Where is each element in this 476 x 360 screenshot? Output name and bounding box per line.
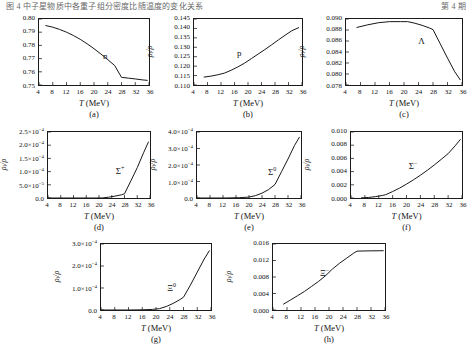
ytick-label-h-0: 0.000 <box>228 307 269 315</box>
ytick-label-h-4: 0.016 <box>228 239 269 247</box>
xtick-label-g-2: 12 <box>120 313 136 321</box>
subplot-e: 0.01.0×10−42.0×10−43.0×10−44.0×10−448121… <box>0 0 476 360</box>
ytick-label-h-3: 0.012 <box>228 256 269 264</box>
xtick-label-c-2: 12 <box>367 88 383 96</box>
xtick-label-h-0: 4 <box>264 313 280 321</box>
xtick-label-h-6: 28 <box>350 313 366 321</box>
xtick-label-d-0: 4 <box>39 201 55 209</box>
xtick-label-d-3: 16 <box>78 201 94 209</box>
xtick-label-a-1: 8 <box>44 88 60 96</box>
xtick-label-b-8: 36 <box>295 88 311 96</box>
data-curve-f <box>361 140 460 198</box>
x-axis-label-h: T (MeV) <box>272 323 386 333</box>
xtick-label-c-3: 16 <box>381 88 397 96</box>
curve-svg-c <box>346 19 462 85</box>
curve-label-f: Σ− <box>409 160 418 171</box>
xtick-label-g-7: 32 <box>190 313 206 321</box>
plot-area-a <box>38 18 150 86</box>
xtick-label-h-5: 24 <box>335 313 351 321</box>
subplot-d: 0.05.0×10−51.0×10−41.5×10−42.0×10−42.5×1… <box>0 0 476 360</box>
xtick-label-a-7: 32 <box>128 88 144 96</box>
xtick-label-g-0: 4 <box>92 313 108 321</box>
ytick-label-d-5: 2.5×10−4 <box>3 127 44 136</box>
xtick-label-f-2: 12 <box>370 201 386 209</box>
x-axis-label-e: T (MeV) <box>196 211 302 221</box>
ytick-label-a-5: 0.80 <box>0 14 35 22</box>
xtick-label-d-1: 8 <box>52 201 68 209</box>
data-curve-h <box>284 251 384 304</box>
ytick-label-b-6: 0.140 <box>149 23 190 31</box>
ytick-label-f-0: 0.000 <box>306 195 347 203</box>
xtick-label-g-5: 24 <box>162 313 178 321</box>
xtick-label-c-7: 32 <box>440 88 456 96</box>
ytick-label-d-4: 2.0×10−4 <box>3 140 44 149</box>
x-axis-label-c: T (MeV) <box>345 98 463 108</box>
plot-area-e <box>196 131 302 199</box>
ytick-label-d-1: 5.0×10−5 <box>3 181 44 190</box>
xtick-label-e-8: 36 <box>294 201 310 209</box>
ytick-label-f-5: 0.010 <box>306 127 347 135</box>
xtick-label-f-0: 4 <box>342 201 358 209</box>
figure-sheet: 图 4 中子星物质中各重子组分密度比随温度的变化关系 第 4 期 0.750.7… <box>0 0 476 360</box>
x-axis-label-d: T (MeV) <box>47 211 151 221</box>
ytick-label-a-3: 0.78 <box>0 41 35 49</box>
xtick-label-h-3: 16 <box>307 313 323 321</box>
xtick-label-d-7: 32 <box>130 201 146 209</box>
subplot-caption-d: (d) <box>47 222 151 232</box>
subplot-caption-h: (h) <box>272 334 386 344</box>
xtick-label-a-8: 36 <box>142 88 158 96</box>
x-axis-label-g: T (MeV) <box>100 323 212 333</box>
xtick-label-h-2: 12 <box>293 313 309 321</box>
ytick-label-c-0: 0.078 <box>301 82 342 90</box>
data-curve-d <box>48 142 148 198</box>
xtick-label-h-8: 36 <box>378 313 394 321</box>
xtick-label-g-1: 8 <box>106 313 122 321</box>
ytick-label-a-2: 0.77 <box>0 54 35 62</box>
xtick-label-e-1: 8 <box>201 201 217 209</box>
xtick-label-c-4: 20 <box>396 88 412 96</box>
ytick-label-d-3: 1.5×10−4 <box>3 154 44 163</box>
xtick-label-f-5: 24 <box>413 201 429 209</box>
xtick-label-g-6: 28 <box>176 313 192 321</box>
ytick-label-g-0: 0.0 <box>56 307 97 315</box>
ytick-label-c-3: 0.084 <box>301 48 342 56</box>
xtick-label-c-0: 4 <box>337 88 353 96</box>
subplot-caption-b: (b) <box>193 109 303 119</box>
ytick-label-c-1: 0.080 <box>301 70 342 78</box>
xtick-label-e-5: 24 <box>254 201 270 209</box>
ytick-label-a-0: 0.75 <box>0 82 35 90</box>
xtick-label-d-5: 24 <box>104 201 120 209</box>
xtick-label-f-7: 32 <box>441 201 457 209</box>
xtick-label-g-4: 20 <box>148 313 164 321</box>
subplot-g: 0.01.0×10−42.0×10−43.0×10−44812162024283… <box>0 0 476 360</box>
y-axis-label-b: ρi/ρ <box>145 40 154 64</box>
xtick-label-b-6: 28 <box>268 88 284 96</box>
xtick-label-h-7: 32 <box>364 313 380 321</box>
plot-area-h <box>272 243 386 311</box>
xtick-label-e-2: 12 <box>215 201 231 209</box>
xtick-label-a-2: 12 <box>58 88 74 96</box>
subplot-c: 0.0780.0800.0820.0840.0860.0880.09048121… <box>0 0 476 360</box>
xtick-label-a-6: 28 <box>114 88 130 96</box>
ytick-label-a-1: 0.76 <box>0 68 35 76</box>
xtick-label-f-6: 28 <box>427 201 443 209</box>
curve-svg-f <box>351 132 462 198</box>
ytick-label-b-5: 0.135 <box>149 33 190 41</box>
ytick-label-b-2: 0.120 <box>149 62 190 70</box>
xtick-label-b-7: 32 <box>281 88 297 96</box>
y-axis-label-c: ρi/ρ <box>297 40 306 64</box>
x-axis-label-a: T (MeV) <box>38 98 150 108</box>
ytick-label-e-1: 1.0×10−4 <box>152 178 193 187</box>
ytick-label-b-1: 0.115 <box>149 72 190 80</box>
xtick-label-a-5: 24 <box>100 88 116 96</box>
y-axis-label-f: ρi/ρ <box>302 153 311 177</box>
ytick-label-e-0: 0.0 <box>152 195 193 203</box>
xtick-label-d-2: 12 <box>65 201 81 209</box>
ytick-label-e-3: 3.0×10−4 <box>152 144 193 153</box>
data-curve-a <box>46 26 147 81</box>
ytick-label-e-2: 2.0×10−4 <box>152 161 193 170</box>
xtick-label-c-5: 24 <box>411 88 427 96</box>
ytick-label-c-6: 0.090 <box>301 14 342 22</box>
data-curve-g <box>101 251 209 310</box>
y-axis-label-e: ρi/ρ <box>148 153 157 177</box>
